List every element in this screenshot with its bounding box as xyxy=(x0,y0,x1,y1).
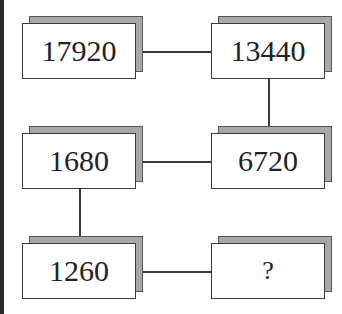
connector-r1c1-r1c2 xyxy=(143,51,211,53)
node-r1c2: 13440 xyxy=(211,23,325,79)
question-mark: ? xyxy=(211,243,325,299)
node-value: 13440 xyxy=(211,23,325,79)
node-r3c1: 1260 xyxy=(22,243,136,299)
connector-r3c1-r3c2 xyxy=(143,271,211,273)
node-r1c1: 17920 xyxy=(22,23,136,79)
connector-r1c2-r2c2 xyxy=(268,79,270,126)
node-r3c2-unknown: ? xyxy=(211,243,325,299)
connector-r2c1-r3c1 xyxy=(79,189,81,236)
left-border xyxy=(0,0,4,314)
node-value: 17920 xyxy=(22,23,136,79)
node-value: 1260 xyxy=(22,243,136,299)
node-r2c1: 1680 xyxy=(22,133,136,189)
node-r2c2: 6720 xyxy=(211,133,325,189)
connector-r2c1-r2c2 xyxy=(143,161,211,163)
node-value: 1680 xyxy=(22,133,136,189)
node-value: 6720 xyxy=(211,133,325,189)
